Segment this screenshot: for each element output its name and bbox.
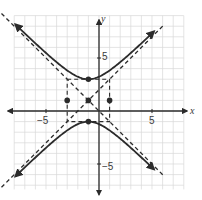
center-point [86, 98, 92, 104]
y-tick-label-neg5: −5 [102, 161, 114, 172]
axes [8, 20, 187, 195]
co-vertex-point [107, 98, 113, 104]
co-vertex-point [64, 98, 70, 104]
x-axis-label: x [189, 105, 195, 116]
y-tick-label-5: 5 [102, 51, 108, 62]
upper-branch [15, 24, 154, 79]
vertex-point [86, 119, 92, 125]
hyperbola-graph: x y −5 5 5 −5 [0, 0, 202, 200]
y-axis-label: y [100, 13, 106, 24]
x-tick-label-neg5: −5 [37, 115, 49, 126]
x-tick-label-5: 5 [149, 115, 155, 126]
vertex-point [86, 76, 92, 82]
lower-branch [15, 122, 154, 177]
